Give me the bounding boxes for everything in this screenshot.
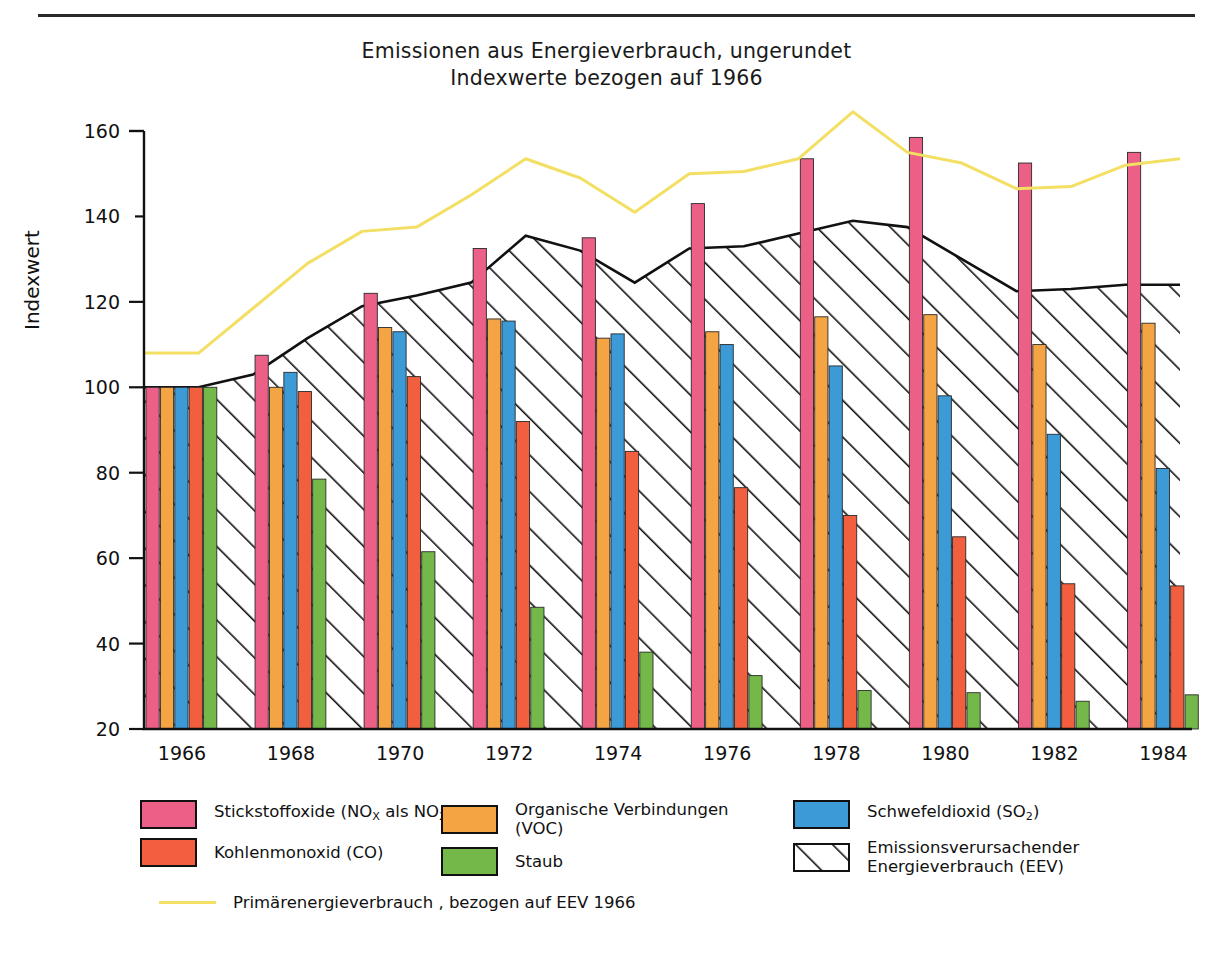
legend-label-voc: Organische Verbindungen(VOC): [515, 800, 729, 838]
bar: [1033, 345, 1046, 729]
x-tick-label: 1970: [376, 742, 424, 764]
legend-column-2: Organische Verbindungen(VOC) Staub: [441, 800, 729, 885]
bar: [269, 387, 282, 729]
bar: [204, 387, 217, 729]
bar: [597, 338, 610, 729]
bar: [625, 451, 638, 729]
legend-item-voc[interactable]: Organische Verbindungen(VOC): [441, 800, 729, 838]
legend-swatch-co: [140, 838, 197, 867]
legend-swatch-so2: [793, 800, 850, 829]
bar: [582, 238, 595, 729]
bar: [313, 479, 326, 729]
bar: [815, 317, 828, 729]
x-tick-label: 1974: [594, 742, 642, 764]
bar: [175, 387, 188, 729]
bar: [924, 315, 937, 729]
legend-label-staub: Staub: [515, 852, 563, 871]
bar: [967, 693, 980, 729]
bar: [189, 387, 202, 729]
legend-label-so2: Schwefeldioxid (SO2): [867, 802, 1039, 826]
legend-item-primaerenergie[interactable]: Primärenergieverbrauch , bezogen auf EEV…: [159, 893, 636, 912]
y-tick-label: 140: [84, 205, 120, 227]
bar: [720, 345, 733, 729]
bar: [938, 396, 951, 729]
bar: [255, 355, 268, 729]
bar: [502, 321, 515, 729]
legend-item-nox[interactable]: Stickstoffoxide (NOX als NO2): [140, 800, 453, 829]
bar: [844, 515, 857, 729]
bar: [706, 332, 719, 729]
legend-swatch-voc: [441, 805, 498, 834]
x-tick-label: 1978: [812, 742, 860, 764]
bar: [734, 488, 747, 729]
y-tick-label: 100: [84, 376, 120, 398]
bar: [1076, 701, 1089, 729]
bar: [829, 366, 842, 729]
bar: [146, 387, 159, 729]
y-tick-label: 60: [96, 547, 120, 569]
x-tick-label: 1976: [703, 742, 751, 764]
y-tick-label: 20: [96, 718, 120, 740]
bar: [1142, 323, 1155, 729]
bar: [858, 691, 871, 729]
y-tick-label: 120: [84, 291, 120, 313]
bar: [749, 676, 762, 729]
bar: [531, 607, 544, 729]
bar: [488, 319, 501, 729]
bar: [1185, 695, 1198, 729]
x-tick-label: 1972: [485, 742, 533, 764]
bar: [611, 334, 624, 729]
bar: [407, 377, 420, 729]
legend-label-primaerenergie: Primärenergieverbrauch , bezogen auf EEV…: [233, 893, 636, 912]
legend-column-3: Schwefeldioxid (SO2) Emissionsverursache…: [793, 800, 1079, 885]
hatch-icon: [795, 845, 848, 870]
bar: [422, 552, 435, 729]
bar: [393, 332, 406, 729]
x-tick-label: 1966: [158, 742, 206, 764]
legend-swatch-eev: [793, 843, 850, 872]
bar: [364, 293, 377, 729]
x-tick-label: 1984: [1139, 742, 1187, 764]
bar: [298, 392, 311, 729]
legend-column-1: Stickstoffoxide (NOX als NO2) Kohlenmono…: [140, 800, 453, 876]
bar: [953, 537, 966, 729]
bar: [1171, 586, 1184, 729]
legend-item-eev[interactable]: EmissionsverursachenderEnergieverbrauch …: [793, 838, 1079, 876]
bar: [284, 372, 297, 729]
y-tick-label: 80: [96, 462, 120, 484]
bar: [1062, 584, 1075, 729]
bar: [691, 204, 704, 729]
bar: [1127, 152, 1140, 729]
bar: [1047, 434, 1060, 729]
bar: [640, 652, 653, 729]
bar: [379, 327, 392, 729]
bar: [160, 387, 173, 729]
x-tick-label: 1968: [267, 742, 315, 764]
x-tick-label: 1982: [1030, 742, 1078, 764]
x-tick-label: 1980: [921, 742, 969, 764]
legend-swatch-staub: [441, 847, 498, 876]
bar: [1018, 163, 1031, 729]
y-tick-label: 160: [84, 120, 120, 142]
bar: [516, 421, 529, 729]
legend-item-staub[interactable]: Staub: [441, 847, 729, 876]
bar: [909, 137, 922, 729]
bar: [473, 248, 486, 729]
legend-item-co[interactable]: Kohlenmonoxid (CO): [140, 838, 453, 867]
bar: [800, 159, 813, 729]
bar: [1156, 468, 1169, 729]
y-tick-label: 40: [96, 633, 120, 655]
legend-label-co: Kohlenmonoxid (CO): [214, 843, 383, 862]
legend-label-eev: EmissionsverursachenderEnergieverbrauch …: [867, 838, 1079, 876]
legend-swatch-primaerenergie-line: [159, 901, 216, 904]
legend-swatch-nox: [140, 800, 197, 829]
legend-label-nox: Stickstoffoxide (NOX als NO2): [214, 802, 453, 826]
legend-item-so2[interactable]: Schwefeldioxid (SO2): [793, 800, 1079, 829]
